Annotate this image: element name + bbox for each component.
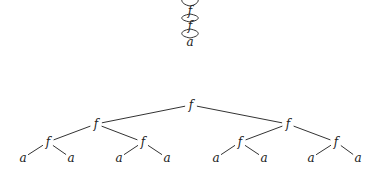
tree-edge — [316, 145, 331, 155]
tree-node-a: a — [163, 151, 170, 165]
tree-node-f: f — [45, 135, 53, 149]
tree-node-a: a — [354, 151, 361, 165]
tree-node-a: a — [307, 151, 314, 165]
tree-edge — [246, 126, 283, 140]
dag-representation: ffa — [182, 0, 199, 49]
tree-edge — [221, 145, 235, 154]
dag-node-f: f — [187, 4, 195, 18]
tree-edge — [148, 145, 162, 154]
tree-edge — [341, 146, 353, 155]
tree-edge — [294, 126, 331, 140]
tree-edge — [124, 145, 138, 154]
tree-edges — [28, 106, 353, 155]
tree-node-a: a — [212, 151, 219, 165]
term-diagram: ffa fffffffaaaaaaaa — [0, 0, 381, 175]
tree-node-f: f — [285, 117, 293, 131]
tree-node-a: a — [260, 151, 267, 165]
tree-edge — [53, 145, 66, 154]
tree-edge — [54, 126, 91, 140]
tree-representation: fffffffaaaaaaaa — [19, 98, 361, 165]
dag-node-a: a — [186, 35, 193, 49]
tree-node-a: a — [115, 151, 122, 165]
tree-edge — [102, 106, 185, 123]
tree-node-f: f — [333, 135, 341, 149]
tree-node-f: f — [237, 135, 245, 149]
tree-node-a: a — [67, 151, 74, 165]
tree-edge — [102, 126, 138, 140]
tree-node-a: a — [19, 151, 26, 165]
tree-node-f: f — [140, 135, 148, 149]
tree-node-f: f — [93, 117, 101, 131]
tree-edge — [245, 145, 259, 154]
tree-edge — [197, 106, 282, 123]
tree-node-f: f — [188, 98, 196, 112]
tree-nodes: fffffffaaaaaaaa — [19, 98, 361, 165]
tree-edge — [28, 145, 43, 155]
